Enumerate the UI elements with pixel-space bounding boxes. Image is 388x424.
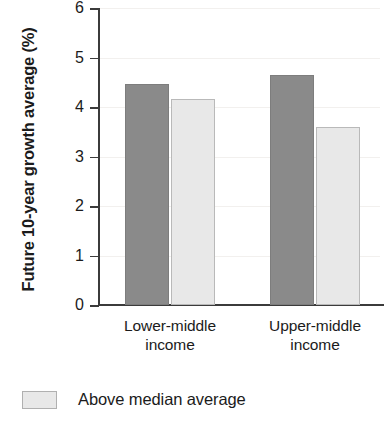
y-axis-tick	[90, 305, 99, 307]
x-axis-label-line: Upper-middle	[245, 316, 385, 335]
bar	[316, 127, 360, 305]
x-axis-label: Upper-middleincome	[245, 316, 385, 354]
chart-legend: Above median average	[22, 390, 246, 409]
x-axis-label-line: income	[245, 335, 385, 354]
legend-label: Above median average	[78, 390, 246, 409]
bar-chart-figure: Future 10-year growth average (%) 654321…	[0, 0, 388, 424]
legend-swatch	[22, 391, 57, 409]
x-axis-label-line: income	[100, 335, 240, 354]
x-axis-label: Lower-middleincome	[100, 316, 240, 354]
x-axis-label-line: Lower-middle	[100, 316, 240, 335]
bar	[171, 99, 215, 305]
bar	[125, 84, 169, 305]
bars-group	[0, 8, 388, 305]
bar	[270, 75, 314, 305]
